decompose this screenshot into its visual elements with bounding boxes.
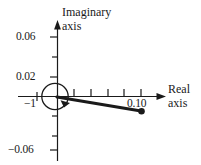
y-tick-label-0-02: 0.02 bbox=[16, 70, 35, 82]
y-tick-label-neg-0-06: −0.06 bbox=[8, 143, 34, 155]
imaginary-axis bbox=[54, 20, 61, 161]
real-axis-label-line2: axis bbox=[168, 97, 187, 110]
imaginary-axis-ticks bbox=[50, 37, 58, 150]
nyquist-plot-figure: 0.06 0.02 −0.06 −1 0.10 Imaginary axis R… bbox=[0, 0, 201, 165]
x-tick-label-neg-1: −1 bbox=[24, 97, 36, 109]
imaginary-axis-label-line1: Imaginary bbox=[62, 6, 111, 19]
imaginary-axis-label-line2: axis bbox=[62, 20, 81, 33]
y-tick-label-0-06: 0.06 bbox=[16, 30, 35, 42]
real-axis-ticks bbox=[37, 89, 141, 101]
real-axis-label-line1: Real bbox=[168, 83, 190, 96]
x-tick-label-0-10: 0.10 bbox=[127, 97, 146, 109]
